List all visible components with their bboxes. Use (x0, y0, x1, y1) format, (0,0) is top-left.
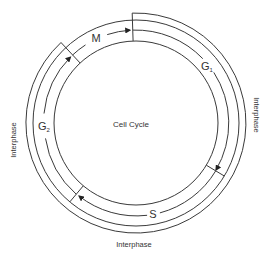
interphase-label-right: Interphase (252, 97, 261, 132)
m-track-right (107, 30, 130, 34)
g1-track-top (133, 30, 203, 59)
tick-s-g2 (70, 186, 84, 202)
tick-g2-m (61, 43, 80, 64)
interphase-label-bottom: Interphase (116, 240, 151, 249)
interphase-label-left: Interphase (9, 122, 18, 157)
cell-cycle-diagram: M G1 S G2 Cell Cycle Interphase Interpha… (0, 0, 271, 257)
phase-label-g1: G1 (201, 60, 214, 73)
tick-g1-s (206, 165, 224, 176)
center-label: Cell Cycle (113, 120, 150, 129)
s-track-left (79, 196, 147, 216)
phase-label-s: S (149, 208, 156, 220)
phase-label-m: M (91, 32, 100, 44)
m-track-left (73, 45, 86, 55)
g2-track-top (44, 57, 71, 114)
g2-track-bottom (46, 138, 77, 194)
tick-m-g1 (132, 13, 133, 41)
phase-label-g2: G2 (38, 120, 51, 133)
g1-track-bottom (214, 72, 229, 170)
